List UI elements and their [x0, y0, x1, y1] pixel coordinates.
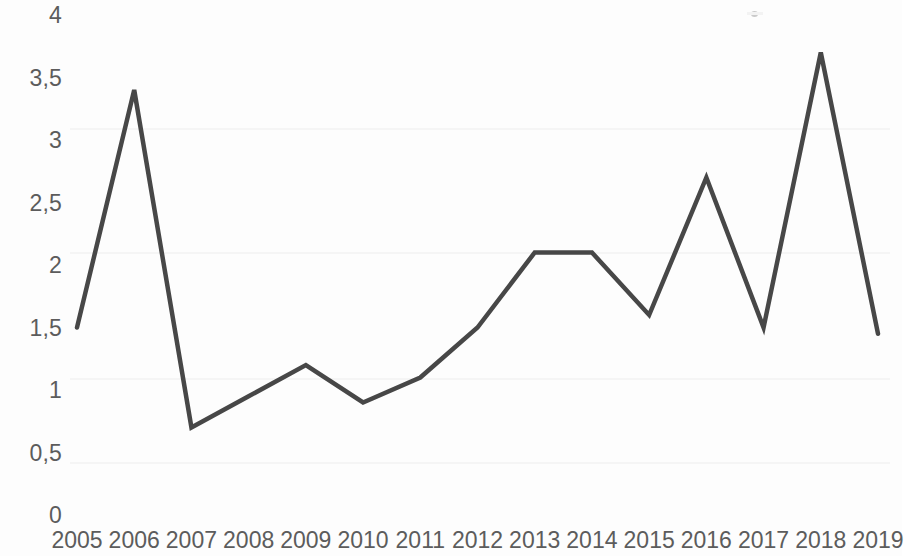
x-axis-tick-label: 2019	[843, 528, 908, 553]
x-axis: 2005200620072008200920102011201220132014…	[0, 528, 902, 556]
scan-speck-artifact	[751, 11, 758, 17]
